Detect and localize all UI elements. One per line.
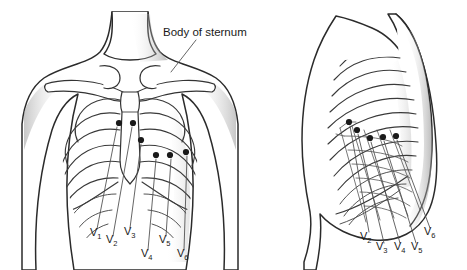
electrode-v4[interactable]	[153, 152, 159, 158]
electrode-v1[interactable]	[116, 120, 122, 126]
lateral-chest-panel: V2 V3 V4 V5 V6	[302, 14, 437, 270]
electrode-lateral-v3[interactable]	[354, 127, 360, 133]
callout-label-body-of-sternum: Body of sternum	[163, 26, 247, 38]
electrode-v3[interactable]	[138, 137, 144, 143]
electrode-lateral-v4[interactable]	[367, 135, 373, 141]
lead-label-lateral-v6: V6	[424, 225, 436, 240]
electrode-lateral-v6[interactable]	[393, 133, 399, 139]
electrode-v5[interactable]	[167, 152, 173, 158]
ecg-lead-placement-figure: V1 V2 V3 V4 V5 V6	[0, 0, 467, 270]
electrode-v6[interactable]	[183, 149, 189, 155]
lead-label-lateral-v4: V4	[394, 240, 406, 255]
electrode-v2[interactable]	[130, 120, 136, 126]
electrode-lateral-v2[interactable]	[346, 119, 352, 125]
diagram-canvas: V1 V2 V3 V4 V5 V6	[0, 0, 467, 270]
lead-label-lateral-v5: V5	[411, 240, 423, 255]
lead-label-lateral-v3: V3	[376, 240, 388, 255]
electrode-lateral-v5[interactable]	[380, 134, 386, 140]
anterior-chest-panel: V1 V2 V3 V4 V5 V6	[22, 12, 247, 270]
